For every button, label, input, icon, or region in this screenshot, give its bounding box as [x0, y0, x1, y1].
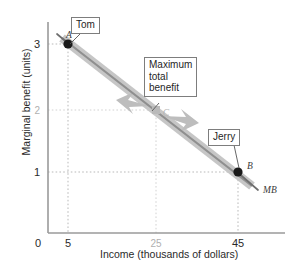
- callout-tom: Tom: [71, 17, 100, 34]
- callout-maximum-total-benefit: Maximum total benefit: [144, 57, 197, 97]
- x-axis-title: Income (thousands of dollars): [100, 248, 280, 260]
- y-tick-3: 3: [34, 38, 40, 50]
- y-axis-title: Marginal benefit (units): [20, 32, 32, 172]
- point-c-label: C: [163, 108, 170, 118]
- y-tick-2: 2: [34, 105, 40, 116]
- y-tick-1: 1: [34, 166, 40, 178]
- x-tick-5: 5: [65, 237, 71, 249]
- mb-curve-label: MB: [262, 185, 277, 195]
- callout-jerry: Jerry: [208, 129, 240, 146]
- data-point-b[interactable]: [233, 167, 242, 176]
- chart-canvas: A C B MB 3 2 1 0 5 25 45: [0, 0, 295, 268]
- leader-jerry: [234, 145, 239, 168]
- point-b-label: B: [247, 161, 253, 171]
- data-point-a[interactable]: [63, 39, 72, 48]
- marginal-benefit-chart: A C B MB 3 2 1 0 5 25 45 Tom Maximum tot…: [0, 0, 295, 268]
- x-tick-0: 0: [35, 237, 41, 249]
